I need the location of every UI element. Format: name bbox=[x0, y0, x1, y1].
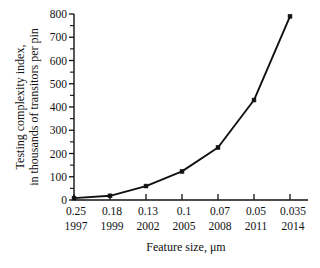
y-tick-label-800: 800 bbox=[50, 8, 68, 20]
x-tick-label-5: 0.05 bbox=[246, 205, 266, 217]
data-point-marker bbox=[288, 14, 292, 18]
x-tick-label-4: 0.07 bbox=[210, 205, 230, 217]
y-axis-major-ticks bbox=[69, 14, 74, 200]
y-tick-label-600: 600 bbox=[50, 55, 68, 67]
x-tick-label-2: 0.13 bbox=[138, 205, 158, 217]
y-tick-label-400: 400 bbox=[50, 101, 68, 113]
y-tick-label-100: 100 bbox=[50, 171, 68, 183]
y-tick-label-300: 300 bbox=[50, 124, 68, 136]
y-tick-label-500: 500 bbox=[50, 78, 68, 90]
data-point-marker bbox=[180, 170, 184, 174]
data-series-markers bbox=[72, 14, 292, 200]
data-point-marker bbox=[72, 196, 76, 200]
x-axis-tick-labels-feature-size: 0.25 0.18 0.13 0.1 0.07 0.05 0.035 bbox=[66, 205, 306, 217]
y-axis-title-line1: Testing complexity index, bbox=[13, 45, 27, 170]
data-point-marker bbox=[144, 184, 148, 188]
line-chart: 0 100 200 300 400 500 600 700 800 0.25 0… bbox=[0, 0, 320, 268]
x-axis-title: Feature size, μm bbox=[146, 240, 226, 254]
x-year-label-1: 1999 bbox=[101, 220, 124, 232]
x-tick-label-3: 0.1 bbox=[177, 205, 192, 217]
x-year-label-4: 2008 bbox=[209, 220, 232, 232]
x-axis-ticks bbox=[74, 194, 290, 200]
x-year-label-0: 1997 bbox=[65, 220, 88, 232]
y-tick-label-200: 200 bbox=[50, 148, 68, 160]
x-year-label-6: 2014 bbox=[282, 220, 305, 232]
y-axis-tick-labels: 0 100 200 300 400 500 600 700 800 bbox=[50, 8, 68, 206]
x-tick-label-1: 0.18 bbox=[102, 205, 122, 217]
y-axis-title-line2: in thousands of transitors per pin bbox=[27, 28, 41, 186]
x-axis-tick-labels-year: 1997 1999 2002 2005 2008 2011 2014 bbox=[65, 220, 305, 232]
y-tick-label-700: 700 bbox=[50, 31, 68, 43]
data-point-marker bbox=[216, 146, 220, 150]
x-year-label-5: 2011 bbox=[245, 220, 268, 232]
data-point-marker bbox=[252, 98, 256, 102]
x-tick-label-0: 0.25 bbox=[66, 205, 86, 217]
x-year-label-3: 2005 bbox=[173, 220, 196, 232]
x-year-label-2: 2002 bbox=[137, 220, 160, 232]
y-axis-title: Testing complexity index, in thousands o… bbox=[13, 28, 41, 186]
data-point-marker bbox=[108, 194, 112, 198]
x-tick-label-6: 0.035 bbox=[280, 205, 306, 217]
chart-figure: 0 100 200 300 400 500 600 700 800 0.25 0… bbox=[0, 0, 320, 268]
